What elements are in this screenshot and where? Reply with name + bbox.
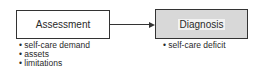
diagnosis-label: Diagnosis bbox=[178, 19, 226, 30]
diagnosis-box: Diagnosis bbox=[155, 9, 248, 39]
diagnosis-bullets: self-care deficit bbox=[163, 41, 226, 50]
connector-line bbox=[110, 24, 150, 25]
assessment-bullets: self-care demand assets limitations bbox=[19, 41, 90, 68]
list-item: self-care deficit bbox=[163, 41, 226, 50]
assessment-box: Assessment bbox=[16, 10, 110, 39]
list-item: limitations bbox=[19, 59, 90, 68]
assessment-label: Assessment bbox=[36, 19, 90, 30]
